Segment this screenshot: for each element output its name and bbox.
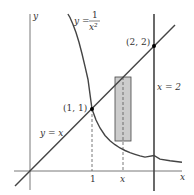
hyperbola-label-lhs: y = <box>73 16 90 26</box>
point-2-2 <box>152 44 156 48</box>
line-yx-label: y = x <box>39 128 63 138</box>
point-label-2-2: (2, 2) <box>126 37 150 47</box>
hyperbola-label-den: x² <box>89 22 98 32</box>
diagram: y x y = 1 x² (2, 2) x = 2 (1, 1) y = x 1… <box>0 0 194 195</box>
tick-label-x: x <box>120 174 125 184</box>
point-label-1-1: (1, 1) <box>63 103 87 113</box>
y-axis-label: y <box>32 11 39 21</box>
line-y-equals-x <box>15 25 175 186</box>
x-axis-label: x <box>180 172 185 182</box>
tick-label-1: 1 <box>90 174 96 184</box>
line-x2-label: x = 2 <box>157 82 181 92</box>
hyperbola-label-num: 1 <box>92 10 98 20</box>
point-1-1 <box>90 107 94 111</box>
